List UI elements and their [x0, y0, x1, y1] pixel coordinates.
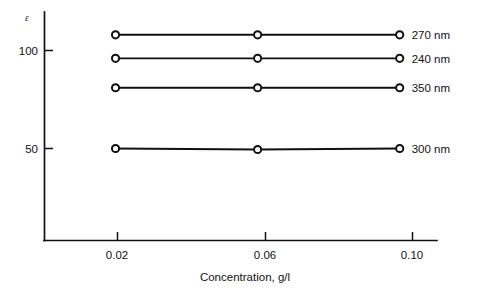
x-tick-marks	[118, 232, 413, 241]
data-point-marker	[396, 84, 403, 91]
data-point-marker	[112, 145, 119, 152]
data-point-marker	[396, 55, 403, 62]
x-tick-label-0.02: 0.02	[106, 249, 128, 261]
series-label-layer: 270 nm240 nm350 nm300 nm	[412, 29, 450, 155]
data-point-marker	[254, 84, 261, 91]
y-tick-label-50: 50	[25, 143, 38, 155]
line-chart-plot: ε 100 50 0.02 0.06 0.10 Concentration, g…	[0, 0, 485, 301]
series-label-240-nm: 240 nm	[412, 53, 450, 65]
series-label-350-nm: 350 nm	[412, 82, 450, 94]
series-label-270-nm: 270 nm	[412, 29, 450, 41]
data-point-marker	[396, 31, 403, 38]
chart-container: ε 100 50 0.02 0.06 0.10 Concentration, g…	[0, 0, 485, 301]
y-tick-marks	[45, 51, 54, 149]
y-axis-label: ε	[25, 13, 29, 23]
data-point-marker	[112, 55, 119, 62]
data-point-marker	[254, 31, 261, 38]
data-point-marker	[254, 55, 261, 62]
x-tick-label-0.06: 0.06	[254, 249, 276, 261]
data-point-marker	[112, 84, 119, 91]
y-tick-label-100: 100	[19, 45, 38, 57]
data-point-marker	[112, 31, 119, 38]
series-label-300-nm: 300 nm	[412, 143, 450, 155]
data-point-marker	[396, 145, 403, 152]
x-tick-label-0.10: 0.10	[401, 249, 423, 261]
series-layer	[112, 31, 403, 153]
x-axis-title: Concentration, g/l	[200, 271, 290, 283]
data-point-marker	[254, 146, 261, 153]
